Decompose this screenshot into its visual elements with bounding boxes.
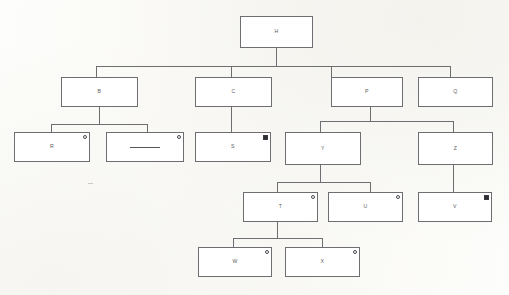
filled-square-marker xyxy=(263,135,268,140)
edge-drop-p xyxy=(331,66,332,77)
node-z[interactable]: Z xyxy=(418,132,493,165)
node-p-label: P xyxy=(365,89,369,94)
scan-artifact-mark xyxy=(88,183,93,184)
node-r-label: R xyxy=(50,144,54,149)
node-q[interactable]: Q xyxy=(418,77,493,107)
node-y-label: Y xyxy=(321,146,325,151)
node-z-label: Z xyxy=(454,146,457,151)
tree-diagram-page: H B C P Q R S Y Z T U V xyxy=(0,0,509,295)
edge-t-stem xyxy=(277,222,278,238)
node-v[interactable]: V xyxy=(418,192,492,222)
node-r[interactable]: R xyxy=(14,132,90,162)
edge-y-stem xyxy=(320,165,321,182)
node-b-label: B xyxy=(98,89,102,94)
edge-drop-t xyxy=(277,182,278,192)
edge-t-bus xyxy=(233,238,322,239)
edge-drop-q xyxy=(450,66,451,77)
node-u-label: U xyxy=(363,204,367,209)
edge-drop-b xyxy=(96,66,97,77)
hollow-circle-marker xyxy=(396,195,400,199)
node-w[interactable]: W xyxy=(198,247,272,277)
node-v-label: V xyxy=(453,204,457,209)
node-p[interactable]: P xyxy=(331,77,403,107)
node-dash-rule xyxy=(130,147,160,148)
node-q-label: Q xyxy=(453,89,457,94)
node-s[interactable]: S xyxy=(195,132,271,162)
edge-drop-r xyxy=(51,124,52,132)
edge-b-bus xyxy=(51,124,147,125)
edge-h-stem xyxy=(276,48,277,66)
edge-c-to-s xyxy=(231,107,232,132)
node-b[interactable]: B xyxy=(61,77,138,107)
node-y[interactable]: Y xyxy=(285,132,361,165)
node-u[interactable]: U xyxy=(328,192,403,222)
edge-p-stem xyxy=(370,107,371,121)
node-x-label: X xyxy=(321,259,325,264)
edge-drop-z xyxy=(453,121,454,132)
edge-drop-c xyxy=(231,66,232,77)
edge-row2-bus xyxy=(96,66,450,67)
node-dash[interactable] xyxy=(106,132,184,162)
edge-drop-x xyxy=(322,238,323,247)
edge-drop-w xyxy=(233,238,234,247)
edge-drop-dash xyxy=(147,124,148,132)
hollow-circle-marker xyxy=(83,135,87,139)
hollow-circle-marker xyxy=(311,195,315,199)
node-t-label: T xyxy=(279,204,282,209)
edge-b-stem xyxy=(99,107,100,124)
node-h[interactable]: H xyxy=(240,16,313,48)
node-s-label: S xyxy=(231,144,235,149)
node-c-label: C xyxy=(231,89,235,94)
node-t[interactable]: T xyxy=(243,192,318,222)
hollow-circle-marker xyxy=(353,250,357,254)
edge-z-to-v xyxy=(453,165,454,192)
node-x[interactable]: X xyxy=(285,247,360,277)
edge-y-bus xyxy=(277,182,370,183)
hollow-circle-marker xyxy=(177,135,181,139)
filled-square-marker xyxy=(484,195,489,200)
node-w-label: W xyxy=(232,259,237,264)
edge-p-bus xyxy=(320,121,453,122)
hollow-circle-marker xyxy=(265,250,269,254)
edge-drop-u xyxy=(370,182,371,192)
node-c[interactable]: C xyxy=(195,77,272,107)
edge-drop-y xyxy=(320,121,321,132)
node-h-label: H xyxy=(274,29,278,34)
